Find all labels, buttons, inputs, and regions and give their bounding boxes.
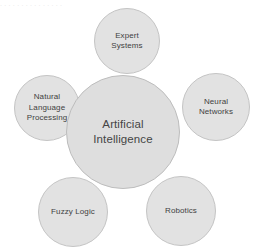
cropped-caption-fragment: . . . . . . . . . . . . . . . [0,0,255,6]
node-label-expert-systems: Expert Systems [107,31,146,52]
node-robotics[interactable]: Robotics [146,176,216,246]
diagram-canvas: . . . . . . . . . . . . . . . Natural La… [0,0,255,252]
node-fuzzy-logic[interactable]: Fuzzy Logic [38,177,108,247]
node-label-neural-networks: Neural Networks [195,97,237,118]
node-expert-systems[interactable]: Expert Systems [94,8,160,74]
node-label-robotics: Robotics [161,206,201,217]
node-label-fuzzy-logic: Fuzzy Logic [47,207,99,218]
node-label-artificial-intelligence: Artificial Intelligence [89,117,156,147]
node-artificial-intelligence[interactable]: Artificial Intelligence [66,75,180,189]
node-neural-networks[interactable]: Neural Networks [182,73,250,141]
node-label-natural-language-processing: Natural Language Processing [23,92,72,124]
